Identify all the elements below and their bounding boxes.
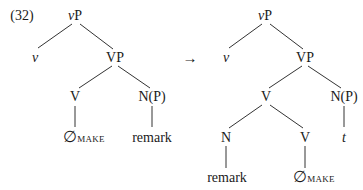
branch-V-V: [270, 105, 303, 128]
example-number: (32): [10, 9, 33, 23]
node-v: v: [32, 51, 38, 65]
node-V-complex: V: [261, 90, 271, 104]
node-NP: N(P): [330, 90, 357, 104]
node-N: N: [221, 131, 231, 145]
branch-vP-VP: [80, 24, 113, 49]
node-trace: t: [342, 131, 346, 145]
null-symbol: ∅: [63, 128, 77, 145]
branch-VP-V: [79, 66, 112, 88]
node-V-lower: V: [300, 131, 310, 145]
branch-vP-VP: [270, 24, 303, 49]
node-v: v: [223, 51, 229, 65]
node-remark: remark: [207, 171, 247, 185]
null-subscript: MAKE: [77, 134, 104, 144]
node-VP: VP: [106, 51, 124, 65]
null-subscript: MAKE: [307, 174, 334, 184]
branch-vP-v: [38, 24, 72, 48]
branch-VP-NP: [308, 66, 341, 88]
node-remark: remark: [132, 131, 172, 145]
branch-vP-v: [229, 24, 262, 48]
node-null-make: ∅MAKE: [63, 130, 104, 146]
node-vP-suffix: P: [264, 8, 272, 23]
node-VP: VP: [296, 51, 314, 65]
node-vP: vP: [258, 9, 272, 23]
node-V: V: [70, 90, 80, 104]
node-vP: vP: [68, 9, 82, 23]
null-symbol: ∅: [293, 168, 307, 185]
branch-VP-NP: [118, 66, 150, 88]
branch-VP-V: [269, 66, 302, 88]
node-vP-suffix: P: [74, 8, 82, 23]
tree-branches: [0, 0, 363, 190]
node-NP: N(P): [138, 90, 165, 104]
branch-V-N: [229, 105, 262, 128]
node-null-make: ∅MAKE: [293, 170, 334, 186]
transformation-arrow-icon: →: [183, 51, 198, 65]
